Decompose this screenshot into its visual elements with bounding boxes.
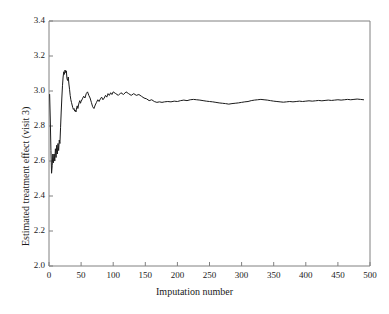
line-chart-plot (0, 0, 389, 314)
y-axis-title: Estimated treatment effect (visit 3) (20, 107, 31, 246)
chart-figure: 2.02.22.42.62.83.03.23.4 050100150200250… (0, 0, 389, 314)
y-tick-label: 2.0 (5, 260, 45, 270)
chart-background (0, 0, 389, 314)
x-axis-title: Imputation number (0, 286, 389, 297)
y-tick-label: 3.4 (5, 15, 45, 25)
y-tick-label: 3.2 (5, 50, 45, 60)
y-tick-label: 3.0 (5, 85, 45, 95)
x-tick-label: 500 (350, 270, 389, 280)
